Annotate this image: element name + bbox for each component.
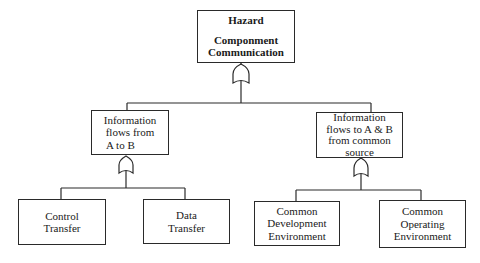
root-title: Hazard [228,14,263,27]
event-label-line: Environment [268,230,325,243]
event-label-line: Information [333,112,386,124]
event-label-line: Common [277,205,318,218]
event-label-line: Development [267,217,326,230]
event-label-line: Information [104,114,157,127]
event-label-line: from common [328,135,391,147]
event-label-line: A to B [106,139,135,152]
event-label-line: source [345,147,374,159]
event-common-operating-environment: Common Operating Environment [379,200,466,248]
event-label-line: Operating [401,218,445,231]
event-label-line: Common [402,205,443,218]
or-gate-icon [233,64,249,83]
or-gate-icon [354,158,368,176]
event-control-transfer: Control Transfer [18,199,106,245]
event-data-transfer: Data Transfer [143,199,230,244]
event-label-line: Transfer [168,222,205,235]
event-info-flows-common-source: Information flows to A & B from common s… [316,112,403,158]
event-label-line: Data [176,209,197,222]
event-label-line: Transfer [44,222,81,235]
event-label-line: flows from [106,126,155,139]
event-info-flows-a-to-b: Information flows from A to B [91,110,169,155]
event-label-line: Environment [394,230,451,243]
hazard-root-event: Hazard Componment Communication [197,10,295,63]
root-line1: Componment [214,34,278,47]
or-gate-icon [119,156,133,173]
event-common-development-environment: Common Development Environment [254,201,340,246]
event-label-line: Control [45,210,79,223]
root-line2: Communication [208,46,284,59]
